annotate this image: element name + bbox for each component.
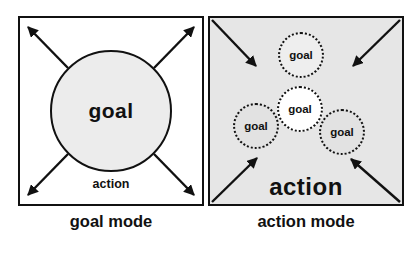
- goal-mode-panel: goal action: [18, 16, 204, 206]
- goal-circle-center-label: goal: [288, 103, 312, 115]
- goal-circle-right-label: goal: [330, 126, 354, 138]
- arrow-out-top-right: [154, 27, 194, 68]
- goal-circle-label: goal: [88, 99, 133, 123]
- goal-circle-left-label: goal: [244, 120, 268, 132]
- action-mode-caption: action mode: [208, 212, 404, 231]
- goal-circle: goal: [50, 50, 172, 172]
- goal-mode-caption: goal mode: [18, 212, 204, 231]
- arrow-in-top-left: [212, 20, 256, 66]
- action-label-small: action: [20, 177, 202, 191]
- goal-circle-center: goal: [277, 86, 323, 132]
- goal-circle-left: goal: [233, 103, 279, 149]
- action-mode-panel: goal goal goal goal action: [208, 16, 404, 206]
- arrow-out-top-left: [28, 27, 68, 68]
- goal-circle-top-label: goal: [289, 49, 313, 61]
- diagram-canvas: goal action goal goal goal goal: [0, 0, 413, 254]
- goal-circle-top: goal: [278, 32, 324, 78]
- arrow-in-top-right: [353, 20, 400, 66]
- action-label-big: action: [210, 173, 402, 201]
- goal-circle-right: goal: [319, 109, 365, 155]
